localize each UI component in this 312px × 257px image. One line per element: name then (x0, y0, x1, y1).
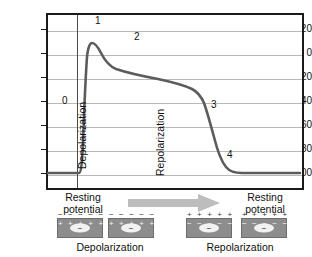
membrane-propagation-diagram: − − − − − + + + + + − − − − − − + + + + … (0, 210, 312, 257)
repolarization-axis-label: Repolarization (155, 109, 166, 176)
cell-interior-charge: − (70, 224, 90, 233)
depolarization-segment-caption: Depolarization (50, 241, 170, 253)
cell-outside-charges: − − − − − (58, 211, 102, 218)
phase-label-1: 1 (95, 16, 101, 26)
cell-interior-charge: − (199, 224, 219, 233)
cell-outside-charges: + + + + + (187, 211, 231, 218)
phase-label-4: 4 (227, 150, 233, 160)
resting-potential-right-line1: Resting (228, 191, 302, 203)
repolarization-segment-caption: Repolarization (180, 241, 300, 253)
phase-label-3: 3 (211, 100, 217, 110)
membrane-cell-depolarized: − − − − − + + + + + − (57, 218, 103, 238)
phase-label-0: 0 (62, 96, 68, 106)
cell-outside-charges: − − − − − (109, 211, 153, 218)
membrane-cell-depolarized: − − − − − + + + + + − (108, 218, 154, 238)
cell-interior-charge: − (254, 224, 274, 233)
cell-interior-charge: − (121, 224, 141, 233)
cell-outside-charges: + + + + + (242, 211, 286, 218)
phase-label-2: 2 (134, 32, 140, 42)
membrane-cell-repolarized: + + + + + − − − − − − (186, 218, 232, 238)
membrane-cell-repolarized: + + + + + − − − − − − (241, 218, 287, 238)
action-potential-figure: +20 0 -20 -40 -60 -80 -100 0 1 2 3 4 Dep… (0, 0, 312, 257)
resting-potential-left-line1: Resting (46, 191, 120, 203)
depolarization-axis-label: Depolarization (77, 102, 88, 169)
